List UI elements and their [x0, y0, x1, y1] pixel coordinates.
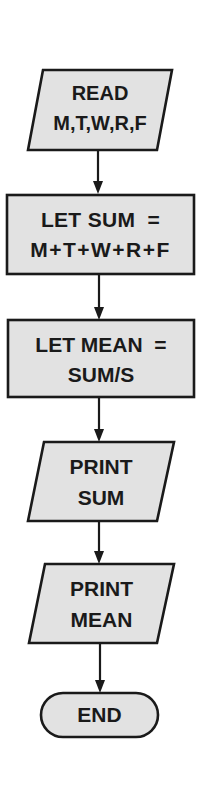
print-sum-node-label: PRINT SUM	[28, 451, 174, 513]
let-sum-node-label: LET SUM = M+T+W+R+F	[7, 205, 194, 265]
print-sum-node-line2: SUM	[28, 482, 174, 513]
read-node-line1: READ	[28, 78, 172, 108]
print-mean-node-label: PRINT MEAN	[29, 573, 174, 635]
arrow-print-mean-to-end	[95, 643, 105, 693]
end-node-label: END	[41, 701, 158, 729]
read-node-line2: M,T,W,R,F	[28, 108, 172, 138]
print-mean-node-line1: PRINT	[29, 573, 174, 604]
let-sum-node-line2: M+T+W+R+F	[7, 235, 194, 265]
read-node-label: READ M,T,W,R,F	[28, 78, 172, 138]
print-mean-node-line2: MEAN	[29, 604, 174, 635]
print-sum-node-line1: PRINT	[28, 451, 174, 482]
end-node-line1: END	[41, 701, 158, 729]
let-mean-node-line1: LET MEAN =	[8, 330, 194, 360]
arrow-print-sum-to-print-mean	[94, 521, 104, 564]
let-mean-node-label: LET MEAN = SUM/S	[8, 330, 194, 390]
arrow-let-sum-to-let-mean	[94, 274, 104, 320]
let-sum-node-line1: LET SUM =	[7, 205, 194, 235]
let-mean-node-line2: SUM/S	[8, 360, 194, 390]
arrow-read-to-let-sum	[93, 150, 103, 194]
arrow-let-mean-to-print-sum	[94, 397, 104, 442]
